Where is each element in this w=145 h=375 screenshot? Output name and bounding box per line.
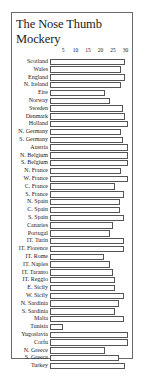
bar-row: Denmark: [0, 113, 145, 121]
bar: [50, 332, 128, 338]
category-label: England: [28, 74, 48, 82]
category-label: N. France: [24, 167, 48, 175]
bar-row: S. Germany: [0, 136, 145, 144]
bar-row: IT. Florence: [0, 245, 145, 253]
category-label: N. Belgium: [20, 152, 48, 160]
bar-row: IT. Taranto: [0, 269, 145, 277]
bar: [50, 160, 128, 166]
category-label: Austria: [30, 144, 48, 152]
chart-title: The Nose Thumb Mockery: [16, 17, 126, 47]
bar-row: C. Spain: [0, 206, 145, 214]
category-label: N. Ireland: [24, 81, 48, 89]
category-label: N. Germany: [18, 128, 48, 136]
bar-row: England: [0, 74, 145, 82]
bar: [50, 98, 110, 104]
bar: [50, 269, 113, 275]
bar-row: N. Germany: [0, 128, 145, 136]
category-label: Norway: [29, 97, 48, 105]
category-label: Holland: [29, 120, 48, 128]
bar: [50, 277, 115, 283]
category-label: Corfu: [34, 339, 48, 347]
bar: [50, 176, 128, 182]
x-tick-label: 25: [110, 47, 116, 53]
category-label: IT. Naples: [23, 261, 48, 269]
bar-row: N. Spain: [0, 198, 145, 206]
category-label: Yugoslavia: [21, 331, 48, 339]
bar-row: IT. Rome: [0, 253, 145, 261]
x-tick-label: 20: [98, 47, 104, 53]
bar: [50, 347, 105, 353]
bar: [50, 191, 124, 197]
bar: [50, 261, 110, 267]
bar: [50, 121, 128, 127]
bar: [50, 168, 121, 174]
bar: [50, 59, 125, 65]
category-label: W. Sicily: [26, 292, 48, 300]
bar: [50, 285, 115, 291]
bar-row: S. Belgium: [0, 159, 145, 167]
bar-row: W. France: [0, 175, 145, 183]
bar: [50, 300, 119, 306]
bar-row: N. Belgium: [0, 152, 145, 160]
category-label: Canaries: [27, 222, 48, 230]
category-label: IT. Taranto: [22, 269, 48, 277]
bar: [50, 152, 128, 158]
bar: [50, 82, 121, 88]
category-label: N. Greece: [24, 347, 48, 355]
bar-row: Corfu: [0, 339, 145, 347]
category-label: N. Spain: [27, 198, 48, 206]
category-label: S. Greece: [25, 354, 48, 362]
bar: [50, 144, 128, 150]
bar-row: Wales: [0, 66, 145, 74]
bar: [50, 293, 124, 299]
bar: [50, 238, 124, 244]
bar-row: Sweden: [0, 105, 145, 113]
x-tick-label: 15: [85, 47, 91, 53]
bar-row: S. Sardinia: [0, 308, 145, 316]
bar-row: N. Sardinia: [0, 300, 145, 308]
category-label: S. Sardinia: [22, 308, 48, 316]
bar-row: Norway: [0, 97, 145, 105]
bar-row: S. Greece: [0, 354, 145, 362]
bar: [50, 137, 123, 143]
category-label: C. France: [25, 183, 48, 191]
bar: [50, 113, 125, 119]
bar: [50, 230, 110, 236]
bar-row: Yugoslavia: [0, 331, 145, 339]
bar-row: Turkey: [0, 362, 145, 370]
category-label: Eire: [38, 89, 48, 97]
x-tick-label: 5: [62, 47, 65, 53]
bar: [50, 66, 121, 72]
bar: [50, 355, 119, 361]
category-label: IT. Reggio: [22, 276, 48, 284]
category-label: Sweden: [29, 105, 48, 113]
bar-row: E. Sicily: [0, 284, 145, 292]
x-axis: 51015202530: [0, 47, 145, 55]
category-label: S. Spain: [28, 214, 48, 222]
category-label: IT. Turin: [27, 237, 48, 245]
category-label: Wales: [33, 66, 48, 74]
bar: [50, 324, 63, 330]
category-label: Turkey: [31, 362, 48, 370]
category-label: Malta: [34, 315, 48, 323]
bar: [50, 222, 113, 228]
category-label: E. Sicily: [27, 284, 48, 292]
bar: [50, 246, 124, 252]
bar: [50, 316, 124, 322]
category-label: Denmark: [26, 113, 48, 121]
category-label: S. Belgium: [21, 159, 48, 167]
bar: [50, 254, 104, 260]
bar-row: S. Spain: [0, 214, 145, 222]
bar-row: W. Sicily: [0, 292, 145, 300]
bar-row: S. France: [0, 191, 145, 199]
bar: [50, 90, 105, 96]
bar-row: IT. Turin: [0, 237, 145, 245]
category-label: C. Spain: [27, 206, 48, 214]
bar-row: Holland: [0, 120, 145, 128]
bar-row: Eire: [0, 89, 145, 97]
bar: [50, 74, 125, 80]
bar: [50, 199, 120, 205]
bar: [50, 183, 115, 189]
bar-row: Canaries: [0, 222, 145, 230]
bar: [50, 105, 123, 111]
